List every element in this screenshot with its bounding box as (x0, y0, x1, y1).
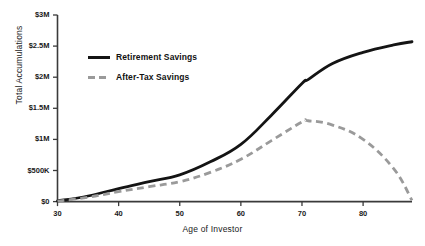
y-axis-title: Total Accumulations (14, 0, 24, 130)
legend-item-after-tax-savings: After-Tax Savings (88, 72, 189, 82)
y-axis-tick-label: $1M (0, 134, 50, 143)
legend-swatch-dashed-line-icon (88, 73, 110, 81)
y-axis-tick-label: $1.5M (0, 103, 50, 112)
x-axis-title: Age of Investor (0, 224, 425, 234)
series-line-after-tax-savings (58, 120, 413, 201)
y-axis-tick-label: $500K (0, 166, 50, 175)
legend-label-retirement-savings: Retirement Savings (116, 52, 197, 62)
y-axis-tick-label: $0 (0, 197, 50, 206)
x-axis-tick-label: 30 (38, 209, 78, 218)
x-axis-tick-label: 50 (160, 209, 200, 218)
axis-lines (58, 15, 413, 202)
y-axis-tick-label: $2M (0, 72, 50, 81)
chart-container: $0$500K$1M$1.5M$2M$2.5M$3M 304050607080 … (0, 0, 425, 246)
legend-swatch-solid-line-icon (88, 53, 110, 61)
series-line-retirement-savings (58, 42, 413, 201)
x-axis-tick-label: 70 (282, 209, 322, 218)
legend-label-after-tax-savings: After-Tax Savings (116, 72, 189, 82)
x-axis-tick-label: 80 (343, 209, 383, 218)
y-axis-tick-label: $2.5M (0, 41, 50, 50)
legend-item-retirement-savings: Retirement Savings (88, 52, 197, 62)
x-axis-tick-label: 40 (99, 209, 139, 218)
x-axis-tick-label: 60 (221, 209, 261, 218)
y-axis-tick-label: $3M (0, 10, 50, 19)
